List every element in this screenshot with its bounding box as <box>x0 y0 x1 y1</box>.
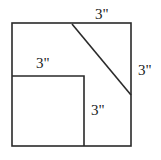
label-inner-top: 3" <box>36 55 50 71</box>
diagonal-cut-line <box>72 24 131 95</box>
label-inner-right: 3" <box>91 102 105 118</box>
label-top: 3" <box>95 6 109 22</box>
diagram-canvas: 3" 3" 3" 3" <box>0 0 161 160</box>
outer-square <box>12 23 131 146</box>
inner-square <box>12 76 84 146</box>
label-right: 3" <box>138 62 152 78</box>
